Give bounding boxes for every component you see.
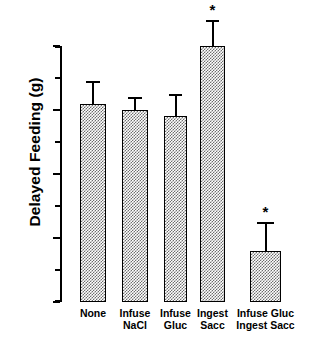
bar [122,110,148,302]
y-tick-minor [55,77,60,79]
x-tick-label-line1: Infuse Gluc [237,307,294,319]
significance-asterisk: * [203,2,223,17]
y-axis-spine [60,46,62,302]
x-tick-label: Infuse GlucIngest Sacc [221,308,310,331]
x-tick-label-line2: Ingest Sacc [221,320,310,332]
error-bar-stem [175,94,177,116]
y-tick-major [53,173,60,175]
y-tick-major [53,45,60,47]
error-bar-stem [92,81,94,103]
y-tick-major [53,301,60,303]
error-bar-cap [128,97,142,99]
error-bar-stem [212,20,214,46]
significance-asterisk: * [256,204,276,219]
y-tick-minor [55,205,60,207]
plot-area: 0.01.02.03.04.0 ** [60,46,298,302]
error-bar-cap [206,20,220,22]
y-tick-minor [55,269,60,271]
bar [80,104,106,302]
y-tick-minor [55,141,60,143]
bar [164,116,187,302]
y-tick-major [53,109,60,111]
y-axis-title: Delayed Feeding (g) [26,42,50,262]
bar [250,251,281,302]
bar [200,46,225,302]
error-bar-cap [169,94,182,96]
error-bar-cap [86,81,100,83]
error-bar-cap [257,222,274,224]
bar-chart-figure: Delayed Feeding (g) 0.01.02.03.04.0 ** N… [0,0,309,342]
error-bar-stem [265,222,267,251]
y-tick-major [53,237,60,239]
